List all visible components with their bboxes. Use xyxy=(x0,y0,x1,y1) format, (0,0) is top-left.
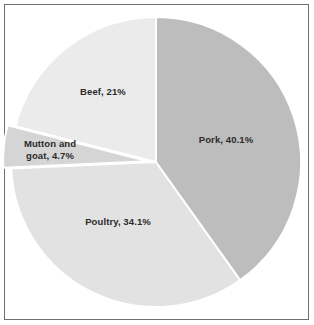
slice-label-pork: Pork, 40.1% xyxy=(183,134,269,146)
slice-label-mutton-line-1: Mutton and xyxy=(24,138,76,149)
slice-label-mutton-and-goat: Mutton andgoat, 4.7% xyxy=(8,138,92,161)
chart-plot-area: Pork, 40.1% Beef, 21% Poultry, 34.1% Mut… xyxy=(0,0,314,325)
slice-label-mutton-line-2: goat, 4.7% xyxy=(26,150,74,161)
slice-label-poultry: Poultry, 34.1% xyxy=(66,216,170,228)
slice-label-beef: Beef, 21% xyxy=(60,86,146,98)
pie-chart-figure: Pork, 40.1% Beef, 21% Poultry, 34.1% Mut… xyxy=(0,0,314,325)
pie-chart-graphic xyxy=(0,0,314,325)
